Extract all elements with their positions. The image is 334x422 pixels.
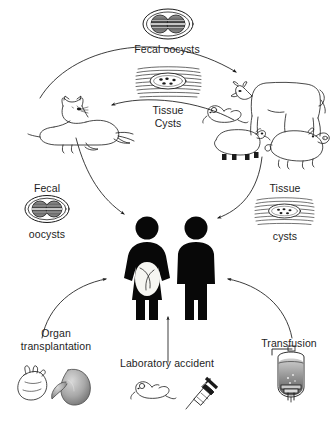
sheep-icon <box>215 129 271 160</box>
cat-icon <box>28 96 134 153</box>
label-tissue-cysts-center: Tissue Cysts <box>141 104 195 130</box>
arrow-livestock-to-humans <box>218 157 262 218</box>
label-fecal-oocysts-top: Fecal oocysts <box>121 43 213 56</box>
tissue-cyst-icon-right <box>255 198 314 225</box>
heart-icon <box>18 366 47 400</box>
label-transfusion: Transfusion <box>249 337 329 350</box>
oocyst-icon <box>143 9 193 39</box>
label-cysts-right: cysts <box>262 230 308 243</box>
arrow-cat-to-humans <box>76 138 124 214</box>
kidney-icon <box>52 369 91 405</box>
tissue-cyst-icon <box>136 67 201 97</box>
oocyst-icon-left <box>25 196 69 223</box>
label-fecal-left: Fecal <box>22 182 72 195</box>
cow-icon <box>231 82 325 136</box>
label-organ-transplantation: Organ transplantation <box>4 327 108 353</box>
diagram-canvas: Fecal oocysts Tissue Cysts Fecal oocysts… <box>0 0 334 422</box>
pig-icon <box>265 128 329 169</box>
arrow-transfusion-to-humans <box>228 279 292 338</box>
label-tissue-right: Tissue <box>260 182 310 195</box>
blood-bag-icon <box>272 346 304 402</box>
mouse-icon <box>203 106 248 123</box>
label-laboratory-accident: Laboratory accident <box>106 357 228 370</box>
mouse-icon-lab <box>131 382 176 399</box>
man-icon <box>177 217 215 321</box>
syringe-icon <box>186 378 217 409</box>
label-oocysts-left: oocysts <box>17 228 77 241</box>
